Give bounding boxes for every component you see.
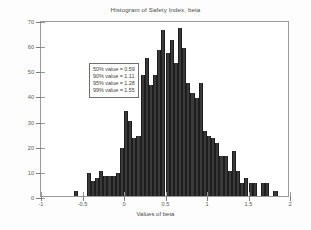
y-axis-tick <box>41 97 45 98</box>
percentile-line: 50% value = 0.59 <box>93 66 135 73</box>
y-axis-tick-label: 0 <box>31 195 34 201</box>
histogram-bar <box>253 183 257 196</box>
y-axis-tick <box>41 47 45 48</box>
chart-title: Histogram of Safety Index, beta <box>0 6 311 13</box>
y-axis-tick-label: 10 <box>28 170 34 176</box>
percentile-line: 95% value = 1.28 <box>93 80 135 87</box>
x-axis-tick <box>41 192 42 196</box>
x-axis-tick <box>249 192 250 196</box>
y-axis-tick-label: 50 <box>28 69 34 75</box>
x-axis-tick-label: 2 <box>288 201 291 207</box>
x-axis-tick-label: 0 <box>122 201 125 207</box>
percentile-annotation-box: 50% value = 0.5990% value = 1.1195% valu… <box>89 63 139 98</box>
x-axis-tick-label: 0.5 <box>162 201 170 207</box>
percentile-line: 99% value = 1.55 <box>93 87 135 94</box>
x-axis-tick <box>207 192 208 196</box>
y-axis-tick-label: 40 <box>28 94 34 100</box>
y-axis-tick <box>41 173 45 174</box>
x-axis-tick-label: -1 <box>39 201 44 207</box>
x-axis-tick <box>290 192 291 196</box>
histogram-bar <box>265 183 269 196</box>
x-axis-tick <box>124 192 125 196</box>
y-axis-tick <box>41 148 45 149</box>
x-axis-tick-label: 1 <box>205 201 208 207</box>
y-axis-tick-label: 20 <box>28 145 34 151</box>
chart-canvas: Histogram of Safety Index, beta 01020304… <box>0 0 311 230</box>
plot-area: 010203040506070 -1-0.500.511.52 50% valu… <box>40 21 289 197</box>
y-axis-tick <box>41 72 45 73</box>
histogram-bar <box>74 191 78 196</box>
x-axis-tick <box>83 192 84 196</box>
x-axis-tick-label: 1.5 <box>245 201 253 207</box>
x-axis-tick <box>166 192 167 196</box>
percentile-line: 90% value = 1.11 <box>93 73 135 80</box>
histogram-bars <box>41 22 288 196</box>
y-axis-tick <box>41 123 45 124</box>
y-axis-tick-label: 60 <box>28 44 34 50</box>
x-axis-title: Values of beta <box>0 211 311 217</box>
x-axis-tick-label: -0.5 <box>78 201 88 207</box>
y-axis-tick-label: 30 <box>28 120 34 126</box>
histogram-bar <box>273 191 277 196</box>
y-axis-tick-label: 70 <box>28 19 34 25</box>
y-axis-tick <box>41 22 45 23</box>
